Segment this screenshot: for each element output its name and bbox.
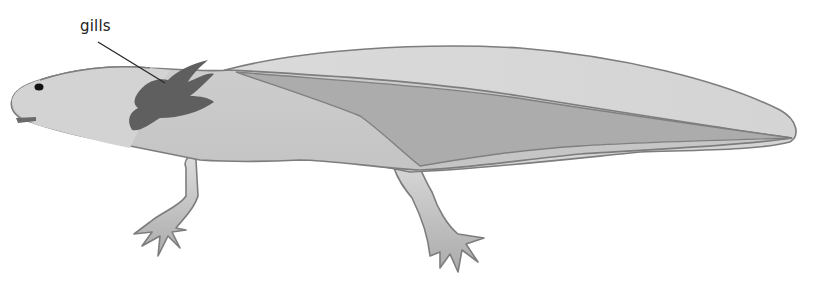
- front-leg: [134, 157, 198, 256]
- eye-icon: [35, 83, 44, 90]
- axolotl-diagram: gills: [0, 0, 815, 285]
- axolotl-illustration: [0, 0, 815, 285]
- gills-label: gills: [80, 19, 111, 34]
